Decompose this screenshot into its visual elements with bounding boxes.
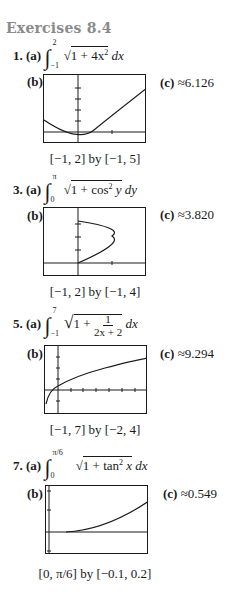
integrand-text: 1 + 4x bbox=[71, 48, 104, 63]
radical-sign: √ bbox=[64, 48, 71, 63]
part-a-label: (a) bbox=[26, 48, 41, 63]
radical-sign: √ bbox=[76, 458, 83, 473]
answer-value: ≈9.294 bbox=[178, 346, 214, 361]
answer-value: ≈0.549 bbox=[181, 486, 217, 501]
denominator: 2x + 2 bbox=[94, 326, 122, 338]
part-c-label: (c) bbox=[160, 75, 174, 90]
graph-5-svg bbox=[45, 346, 147, 414]
differential: dx bbox=[125, 316, 137, 331]
graph-5 bbox=[44, 345, 147, 414]
part-c-answer: (c) ≈3.820 bbox=[160, 207, 214, 223]
viewing-window: [0, π/6] by [−0.1, 0.2] bbox=[0, 566, 190, 582]
integral-limits: 7−1 bbox=[50, 308, 60, 336]
part-b-label: (b) bbox=[27, 346, 43, 362]
integral-limits: π0 bbox=[50, 174, 60, 202]
upper-limit: π/6 bbox=[52, 448, 62, 457]
integrand-text: 1 + tan bbox=[83, 458, 119, 473]
exercise-number: 1. bbox=[13, 48, 23, 63]
viewing-window: [−1, 2] by [−1, 5] bbox=[0, 151, 190, 167]
exercise-3-part-a: 3. (a) ∫π0 √1 + cos2 y dy bbox=[13, 174, 137, 205]
upper-limit: 7 bbox=[52, 306, 56, 315]
part-c-label: (c) bbox=[163, 486, 177, 501]
exercise-number: 7. bbox=[13, 458, 23, 473]
differential: dx bbox=[135, 458, 147, 473]
graph-1-svg bbox=[44, 75, 146, 143]
exercise-5-part-a: 5. (a) ∫7−1 √1 + 12x + 2 dx bbox=[13, 308, 138, 339]
graph-3 bbox=[43, 207, 146, 276]
part-b-label: (b) bbox=[27, 486, 43, 502]
part-c-label: (c) bbox=[160, 207, 174, 222]
exercise-number: 3. bbox=[13, 182, 23, 197]
part-c-answer: (c) ≈6.126 bbox=[160, 75, 214, 91]
exercise-number: 5. bbox=[13, 316, 23, 331]
upper-limit: 2 bbox=[52, 38, 56, 47]
graph-3-svg bbox=[44, 208, 146, 276]
answer-value: ≈6.126 bbox=[178, 75, 214, 90]
part-b-label: (b) bbox=[27, 208, 43, 224]
numerator: 1 bbox=[103, 313, 113, 326]
viewing-window: [−1, 7] by [−2, 4] bbox=[0, 422, 190, 438]
exercise-1-part-a: 1. (a) ∫2−1 √1 + 4x2 dx bbox=[13, 40, 124, 71]
graph-7 bbox=[45, 485, 148, 554]
lower-limit: 0 bbox=[50, 195, 54, 204]
differential: dy bbox=[125, 182, 137, 197]
exponent: 2 bbox=[104, 48, 108, 57]
radical-sign: √ bbox=[64, 312, 74, 332]
integrand-text: 1 + cos bbox=[71, 182, 109, 197]
integrand: 1 + 4x2 bbox=[71, 46, 108, 63]
integrand-text: 1 + bbox=[74, 316, 94, 331]
differential: dx bbox=[111, 48, 123, 63]
graph-1 bbox=[43, 74, 146, 143]
radical-sign: √ bbox=[64, 182, 71, 197]
fraction: 12x + 2 bbox=[94, 313, 122, 338]
answer-value: ≈3.820 bbox=[178, 207, 214, 222]
upper-limit: π bbox=[52, 172, 56, 181]
part-c-answer: (c) ≈0.549 bbox=[163, 486, 217, 502]
part-c-answer: (c) ≈9.294 bbox=[160, 346, 214, 362]
part-a-label: (a) bbox=[26, 316, 41, 331]
integrand: 1 + cos2 y bbox=[71, 180, 122, 197]
lower-limit: 0 bbox=[50, 471, 54, 480]
lower-limit: −1 bbox=[50, 61, 59, 70]
integrand: 1 + tan2 x bbox=[83, 456, 132, 473]
lower-limit: −1 bbox=[50, 329, 59, 338]
variable: y bbox=[113, 182, 122, 197]
part-c-label: (c) bbox=[160, 346, 174, 361]
integral-limits: π/60 bbox=[50, 450, 72, 478]
part-a-label: (a) bbox=[26, 182, 41, 197]
part-a-label: (a) bbox=[26, 458, 41, 473]
graph-7-svg bbox=[46, 486, 148, 554]
exercise-7-part-a: 7. (a) ∫π/60 √1 + tan2 x dx bbox=[13, 450, 148, 481]
variable: x bbox=[123, 458, 132, 473]
part-b-label: (b) bbox=[27, 74, 43, 90]
viewing-window: [−1, 2] by [−1, 4] bbox=[0, 284, 190, 300]
integral-limits: 2−1 bbox=[50, 40, 60, 68]
integrand: 1 + 12x + 2 bbox=[74, 314, 123, 331]
section-heading: Exercises 8.4 bbox=[6, 20, 112, 36]
